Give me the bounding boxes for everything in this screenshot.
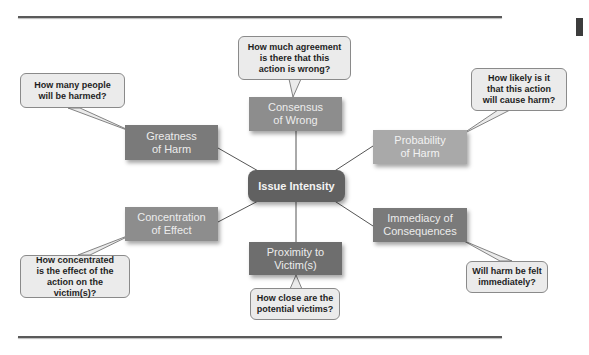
node-line: Probability — [394, 134, 445, 147]
callout-line: immediately? — [478, 277, 536, 288]
callout-line: action on the victim(s)? — [25, 277, 125, 299]
node-line: Proximity to — [267, 246, 324, 259]
consensus-callout: How much agreement is there that this ac… — [238, 36, 351, 80]
callout-line: action is wrong? — [259, 64, 331, 75]
callout-line: Will harm be felt — [472, 266, 541, 277]
greatness-of-harm-node: Greatness of Harm — [125, 125, 218, 160]
node-line: of Wrong — [273, 114, 317, 127]
proximity-to-victims-node: Proximity to Victim(s) — [249, 242, 342, 275]
callout-line: is the effect of the — [36, 266, 113, 277]
issue-intensity-label: Issue Intensity — [258, 180, 334, 192]
callout-line: will be harmed? — [38, 91, 106, 102]
node-line: of Harm — [152, 143, 191, 156]
node-line: of Effect — [151, 224, 191, 237]
concentration-callout: How concentrated is the effect of the ac… — [20, 255, 130, 298]
greatness-callout: How many people will be harmed? — [20, 73, 125, 108]
callout-line: will cause harm? — [483, 95, 556, 106]
node-line: Victim(s) — [274, 259, 317, 272]
callout-line: is there that this — [260, 53, 330, 64]
callout-line: potential victims? — [257, 304, 334, 315]
node-line: Greatness — [146, 130, 197, 143]
callout-line: that this action — [487, 84, 551, 95]
immediacy-callout: Will harm be felt immediately? — [466, 261, 548, 293]
consensus-of-wrong-node: Consensus of Wrong — [249, 97, 342, 131]
node-line: Consequences — [383, 225, 456, 238]
proximity-callout: How close are the potential victims? — [250, 288, 340, 320]
callout-line: How many people — [34, 80, 111, 91]
node-line: Immediacy of — [387, 212, 452, 225]
concentration-of-effect-node: Concentration of Effect — [125, 207, 218, 241]
callout-line: How likely is it — [488, 73, 550, 84]
issue-intensity-node: Issue Intensity — [248, 170, 345, 202]
node-line: of Harm — [400, 147, 439, 160]
callout-line: How much agreement — [248, 42, 342, 53]
probability-callout: How likely is it that this action will c… — [471, 68, 567, 111]
node-line: Consensus — [268, 101, 323, 114]
callout-line: How close are the — [257, 293, 334, 304]
probability-of-harm-node: Probability of Harm — [373, 130, 467, 164]
immediacy-of-consequences-node: Immediacy of Consequences — [373, 208, 467, 242]
callout-line: How concentrated — [36, 255, 114, 266]
node-line: Concentration — [137, 211, 206, 224]
